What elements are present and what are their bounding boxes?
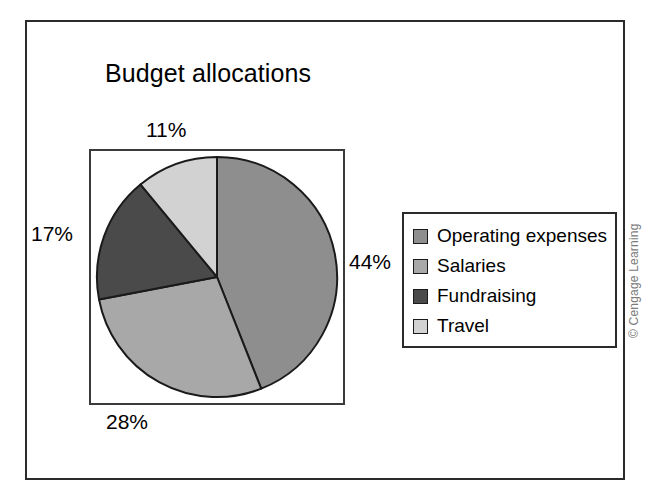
pie-slice-group [97, 157, 337, 397]
slice-value-label-fundraising: 17% [31, 222, 73, 246]
legend-swatch-icon [413, 259, 428, 274]
legend-item-travel: Travel [413, 311, 615, 341]
legend: Operating expenses Salaries Fundraising … [402, 212, 617, 348]
page-title: Budget allocations [105, 58, 311, 88]
legend-swatch-icon [413, 229, 428, 244]
slice-value-label-salaries: 28% [106, 410, 148, 434]
legend-swatch-icon [413, 319, 428, 334]
legend-item-salaries: Salaries [413, 251, 615, 281]
legend-item-fundraising: Fundraising [413, 281, 615, 311]
legend-swatch-icon [413, 289, 428, 304]
copyright-credit: © Cengage Learning [627, 188, 641, 338]
slice-value-label-operating-expenses: 44% [349, 250, 391, 274]
legend-item-label: Salaries [437, 255, 506, 277]
slice-value-label-travel: 11% [146, 118, 186, 142]
legend-item-operating-expenses: Operating expenses [413, 221, 615, 251]
legend-item-label: Operating expenses [437, 225, 607, 247]
legend-item-label: Fundraising [437, 285, 536, 307]
legend-item-label: Travel [437, 315, 489, 337]
pie-chart-svg [91, 151, 343, 403]
pie-chart-plot-area [89, 149, 345, 405]
